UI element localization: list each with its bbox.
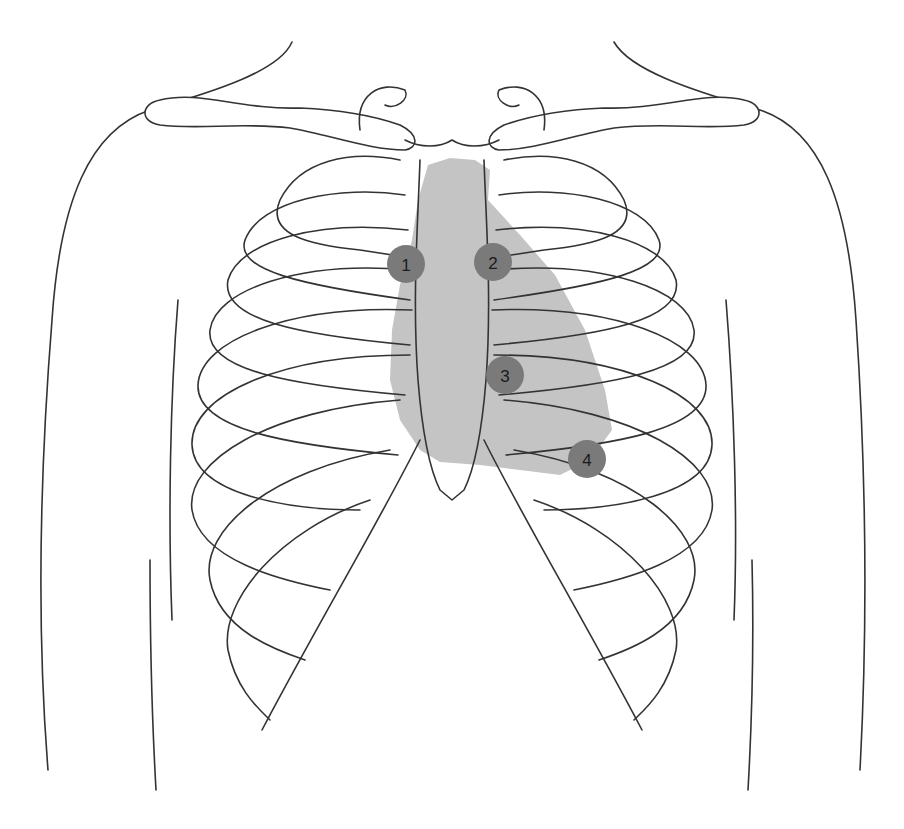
clavicles <box>145 87 759 150</box>
ribs-left <box>192 156 420 730</box>
svg-text:2: 2 <box>488 254 497 273</box>
rib-cage-diagram: 1 2 3 4 <box>0 0 904 829</box>
marker-3: 3 <box>486 356 524 394</box>
marker-1: 1 <box>387 245 425 283</box>
svg-text:4: 4 <box>582 451 591 470</box>
svg-text:1: 1 <box>401 256 410 275</box>
marker-4: 4 <box>568 440 606 478</box>
marker-2: 2 <box>474 243 512 281</box>
svg-text:3: 3 <box>500 367 509 386</box>
